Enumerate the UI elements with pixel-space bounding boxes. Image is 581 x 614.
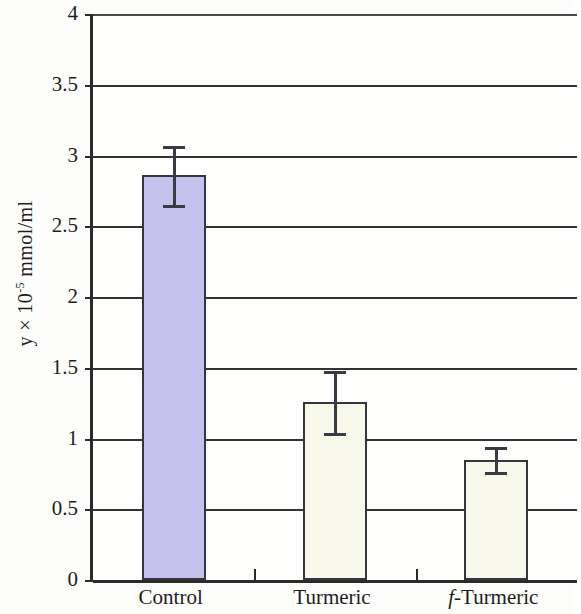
error-bar-line: [173, 146, 176, 205]
y-axis-tick-mark: [85, 580, 93, 582]
x-axis-tick-mark: [416, 569, 418, 580]
gridline: [93, 156, 577, 158]
y-axis-tick-label: 3: [14, 145, 78, 166]
y-axis-tick-label: 4: [14, 3, 78, 24]
error-bar-cap-lower: [163, 205, 185, 208]
bar-f-turmeric: [464, 460, 528, 580]
y-axis-tick-label: 1: [14, 428, 78, 449]
y-axis-tick-mark: [85, 509, 93, 511]
y-axis-tick-label: 2.5: [14, 215, 78, 236]
y-axis-tick-label: 0.5: [14, 498, 78, 519]
y-axis-tick-labels: 00.511.522.533.54: [14, 0, 78, 614]
y-axis-tick-mark: [85, 226, 93, 228]
error-bar-line: [334, 371, 337, 433]
y-axis-tick-mark: [85, 368, 93, 370]
error-bar-cap-lower: [324, 433, 346, 436]
y-axis-tick-label: 3.5: [14, 74, 78, 95]
y-axis-tick-mark: [85, 14, 93, 16]
y-axis-tick-mark: [85, 297, 93, 299]
gridline: [93, 85, 577, 87]
error-bar-cap-upper: [163, 146, 185, 149]
plot-area: [90, 14, 574, 580]
x-axis-baseline: [93, 580, 577, 583]
error-bar-line: [495, 447, 498, 472]
error-bar-cap-upper: [324, 371, 346, 374]
y-axis-tick-label: 2: [14, 286, 78, 307]
gridline: [93, 14, 577, 16]
x-axis-tick-label: f-Turmeric: [393, 585, 581, 610]
y-axis-tick-label: 1.5: [14, 357, 78, 378]
y-axis-tick-mark: [85, 85, 93, 87]
error-bar-cap-lower: [485, 472, 507, 475]
y-axis-tick-mark: [85, 156, 93, 158]
error-bar-cap-upper: [485, 447, 507, 450]
bar-control: [142, 175, 206, 580]
y-axis-tick-mark: [85, 439, 93, 441]
x-axis-tick-mark: [254, 569, 256, 580]
y-axis-tick-label: 0: [14, 569, 78, 590]
